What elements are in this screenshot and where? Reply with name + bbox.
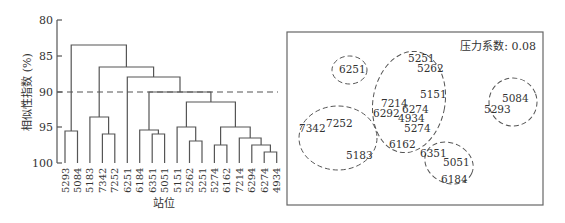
stress-annotation: 压力系数: 0.08	[460, 40, 536, 53]
leaf-label: 5051	[159, 168, 170, 193]
point-label: 7252	[326, 117, 353, 129]
leaf-label: 5183	[84, 168, 95, 193]
figure: 80 85 90 95 100 相似性指数 (%) 5293 5084 5183…	[0, 0, 565, 223]
leaf-label: 7342	[97, 168, 108, 193]
y-axis-label: 相似性指数 (%)	[20, 53, 34, 131]
leaf-label: 6184	[134, 168, 145, 193]
leaf-label: 5151	[172, 168, 183, 193]
leaf-label: 6251	[122, 168, 133, 193]
y-tick-labels: 80 85 90 95 100	[32, 14, 53, 170]
point-label: 5262	[417, 62, 444, 74]
leaf-label: 5262	[184, 168, 195, 193]
y-tick-label: 80	[39, 14, 53, 27]
point-label: 6292	[373, 107, 400, 119]
leaf-label: 5293	[60, 168, 71, 193]
leaf-label: 6162	[221, 168, 232, 193]
point-label: 6251	[339, 63, 366, 75]
leaf-label: 5084	[72, 168, 83, 193]
y-tick-label: 85	[39, 50, 53, 63]
leaf-label: 5251	[197, 168, 208, 193]
x-axis-label: 站位	[153, 196, 175, 210]
y-tick-label: 95	[39, 121, 53, 134]
leaf-label: 4934	[271, 168, 282, 193]
point-label: 7342	[299, 122, 326, 134]
leaf-labels: 5293 5084 5183 7342 7252 6251 6184 6351 …	[60, 168, 283, 193]
y-tick-label: 90	[39, 86, 53, 99]
leaf-label: 5274	[209, 168, 220, 193]
leaf-label: 6274	[259, 168, 270, 193]
leaf-label: 6351	[147, 168, 158, 193]
point-label: 6162	[389, 138, 416, 150]
y-tick-label: 100	[32, 157, 53, 170]
point-label: 5293	[484, 103, 511, 115]
point-label: 5183	[346, 149, 373, 161]
leaf-label: 6294	[246, 168, 257, 193]
point-label: 6184	[441, 173, 468, 185]
point-label: 5274	[404, 122, 431, 134]
leaf-label: 7214	[234, 168, 245, 193]
point-label: 5051	[443, 156, 470, 168]
mds-point-labels: 6251 5251 5262 5151 7214 6292 6274 4934 …	[299, 52, 529, 185]
leaf-label: 7252	[109, 168, 120, 193]
point-label: 5151	[420, 88, 447, 100]
